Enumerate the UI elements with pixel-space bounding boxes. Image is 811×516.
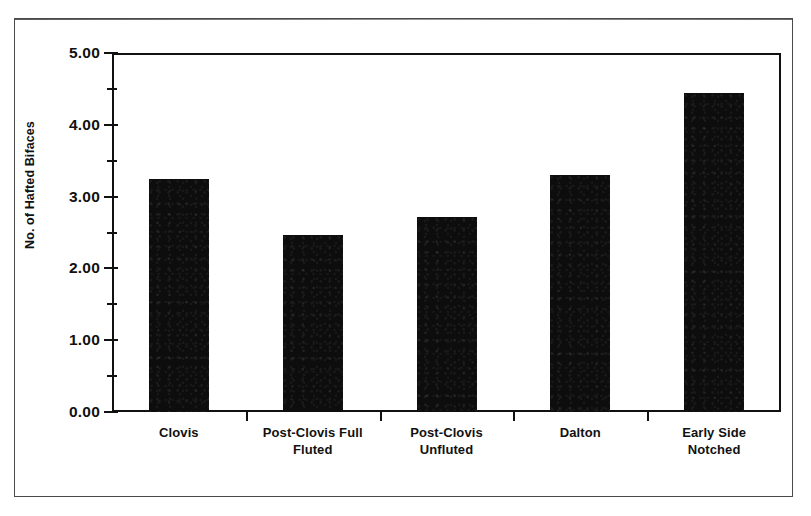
bar	[283, 235, 343, 412]
x-axis-category-label-line: Unfluted	[380, 441, 514, 458]
y-axis-minor-tick	[107, 88, 117, 90]
y-axis-tick-labels: 0.001.002.003.004.005.00	[42, 0, 100, 516]
y-axis-title-text: No. of Hafted Bifaces	[23, 85, 37, 285]
x-axis-category-label: Post-ClovisUnfluted	[380, 424, 514, 458]
y-axis-minor-tick	[107, 232, 117, 234]
y-axis-major-tick	[104, 267, 118, 269]
bar-chart: No. of Hafted Bifaces 0.001.002.003.004.…	[0, 0, 811, 516]
y-axis-major-tick	[104, 411, 118, 413]
y-axis-tick-label: 4.00	[42, 116, 100, 134]
y-axis-major-tick	[104, 339, 118, 341]
x-axis-category-label: Dalton	[513, 424, 647, 441]
x-axis-tick	[647, 412, 649, 421]
y-axis-tick-label: 0.00	[42, 403, 100, 421]
y-axis-tick-label: 1.00	[42, 331, 100, 349]
y-axis-major-tick	[104, 124, 118, 126]
bar	[417, 217, 477, 412]
x-axis-category-label-line: Dalton	[513, 424, 647, 441]
y-axis-tick-label: 5.00	[42, 44, 100, 62]
x-axis-tick	[380, 412, 382, 421]
x-axis-tick	[513, 412, 515, 421]
x-axis-category-label-line: Fluted	[246, 441, 380, 458]
y-axis-minor-tick	[107, 375, 117, 377]
x-axis-category-label-line: Clovis	[112, 424, 246, 441]
y-axis-major-tick	[104, 196, 118, 198]
y-axis-minor-tick	[107, 160, 117, 162]
y-axis-tick-label: 2.00	[42, 259, 100, 277]
x-axis-tick	[246, 412, 248, 421]
bar	[684, 93, 744, 412]
x-axis-category-label-line: Early Side	[647, 424, 781, 441]
y-axis-minor-tick	[107, 303, 117, 305]
x-axis-category-label: Clovis	[112, 424, 246, 441]
y-axis-tick-label: 3.00	[42, 188, 100, 206]
bar	[550, 175, 610, 412]
x-axis-category-label-line: Post-Clovis Full	[246, 424, 380, 441]
x-axis-category-label: Early SideNotched	[647, 424, 781, 458]
x-axis-category-label-line: Notched	[647, 441, 781, 458]
y-axis-major-tick	[104, 52, 118, 54]
bar	[149, 179, 209, 412]
x-axis-category-label: Post-Clovis FullFluted	[246, 424, 380, 458]
x-axis-category-label-line: Post-Clovis	[380, 424, 514, 441]
